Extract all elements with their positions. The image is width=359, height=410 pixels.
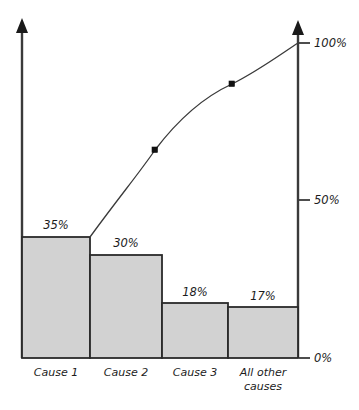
pareto-chart: 100% 50% 0% 35% 30% 18% 17% Cause 1 Caus… — [0, 0, 359, 410]
category-label-cause-3: Cause 3 — [173, 366, 217, 379]
cumulative-line-series — [90, 43, 298, 237]
category-label-all-other-causes-line2: causes — [244, 380, 282, 393]
bar-value-label-cause-3: 18% — [182, 285, 208, 299]
right-axis-ticks — [299, 43, 310, 358]
bar-cause-3 — [162, 303, 228, 358]
right-axis-arrow-icon — [292, 20, 304, 35]
bar-cause-2 — [90, 255, 162, 358]
bar-value-label-cause-2: 30% — [113, 236, 139, 250]
pareto-chart-canvas: 100% 50% 0% 35% 30% 18% 17% Cause 1 Caus… — [0, 0, 359, 410]
bar-cause-1 — [22, 237, 90, 358]
category-label-all-other-causes-line1: All other — [239, 366, 288, 379]
bar-all-other-causes — [228, 307, 298, 358]
category-label-cause-2: Cause 2 — [104, 366, 148, 379]
axis-tick-label-50: 50% — [314, 193, 340, 207]
bar-value-label-all-other-causes: 17% — [250, 289, 276, 303]
left-axis-arrow-icon — [16, 18, 28, 33]
cumulative-marker-83 — [229, 81, 235, 87]
category-label-cause-1: Cause 1 — [34, 366, 78, 379]
cumulative-marker-65 — [152, 147, 158, 153]
axis-tick-label-0: 0% — [314, 351, 332, 365]
bar-value-label-cause-1: 35% — [43, 218, 69, 232]
axis-tick-label-100: 100% — [314, 36, 347, 50]
cumulative-curve — [90, 43, 298, 237]
